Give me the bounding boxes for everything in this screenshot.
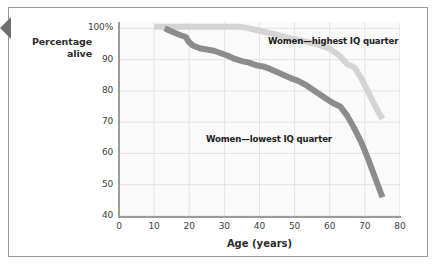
x-tick-label: 60 bbox=[318, 221, 342, 231]
page-edge-tab-icon bbox=[0, 17, 11, 39]
y-tick-label: 80 bbox=[75, 85, 113, 95]
x-tick-label: 50 bbox=[283, 221, 307, 231]
x-tick-label: 10 bbox=[142, 221, 166, 231]
y-tick-label: 50 bbox=[75, 179, 113, 189]
x-tick-label: 40 bbox=[248, 221, 272, 231]
y-tick-label: 90 bbox=[75, 54, 113, 64]
y-tick-label: 60 bbox=[75, 147, 113, 157]
y-tick-label: 40 bbox=[75, 210, 113, 220]
x-tick-label: 0 bbox=[107, 221, 131, 231]
x-axis-title: Age (years) bbox=[119, 238, 400, 249]
series-line-lowest-iq bbox=[165, 28, 383, 197]
series-label-lowest-iq: Women—lowest IQ quarter bbox=[206, 134, 332, 144]
x-axis-line bbox=[118, 216, 401, 218]
x-tick-label: 70 bbox=[353, 221, 377, 231]
chart-svg bbox=[119, 22, 400, 216]
y-axis-title-line1: Percentage bbox=[32, 36, 92, 47]
x-tick-label: 30 bbox=[212, 221, 236, 231]
y-axis-line bbox=[118, 22, 120, 217]
series-label-highest-iq: Women—highest IQ quarter bbox=[268, 36, 398, 46]
x-tick-label: 80 bbox=[388, 221, 412, 231]
plot-area bbox=[119, 22, 400, 216]
x-tick-label: 20 bbox=[177, 221, 201, 231]
y-tick-label: 100% bbox=[75, 22, 113, 32]
figure-container: Percentage alive 405060708090100% 010203… bbox=[0, 0, 437, 266]
y-tick-label: 70 bbox=[75, 116, 113, 126]
